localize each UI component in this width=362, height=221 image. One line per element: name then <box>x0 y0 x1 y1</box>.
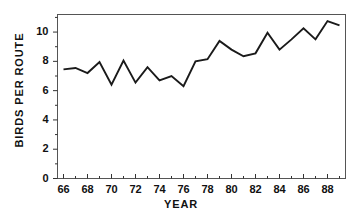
x-tick-label: 88 <box>315 183 341 195</box>
data-series <box>64 21 340 86</box>
x-tick-marks <box>64 174 340 179</box>
y-tick-label: 2 <box>25 142 49 154</box>
x-tick-label: 72 <box>123 183 149 195</box>
x-tick-label: 78 <box>195 183 221 195</box>
x-tick-label: 80 <box>219 183 245 195</box>
x-tick-label: 86 <box>291 183 317 195</box>
x-tick-label: 84 <box>267 183 293 195</box>
x-tick-label: 66 <box>51 183 77 195</box>
y-tick-label: 8 <box>25 54 49 66</box>
x-tick-label: 68 <box>75 183 101 195</box>
y-tick-label: 10 <box>25 25 49 37</box>
y-tick-label: 4 <box>25 113 49 125</box>
y-tick-label: 0 <box>25 172 49 184</box>
plot-frame <box>58 15 346 179</box>
x-tick-label: 70 <box>99 183 125 195</box>
x-axis-label: YEAR <box>0 198 362 210</box>
chart-figure: BIRDS PER ROUTE YEAR 0246810 66687072747… <box>0 0 362 221</box>
x-tick-label: 82 <box>243 183 269 195</box>
x-tick-label: 74 <box>147 183 173 195</box>
y-tick-marks <box>53 17 58 178</box>
y-tick-label: 6 <box>25 84 49 96</box>
x-tick-label: 76 <box>171 183 197 195</box>
y-axis-label: BIRDS PER ROUTE <box>13 33 25 148</box>
